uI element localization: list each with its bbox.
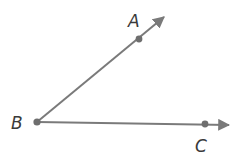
label-b: B [11,113,23,133]
ray-bc [37,122,229,125]
ray-ba [37,17,164,122]
label-a: A [127,11,140,31]
angle-abc-diagram: A B C [0,0,246,164]
point-c [202,121,209,128]
label-c: C [195,136,207,156]
point-a [136,36,143,43]
point-b [33,118,40,125]
